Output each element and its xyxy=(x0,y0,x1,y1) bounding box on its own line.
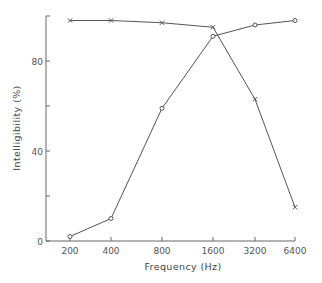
intelligibility-chart: 04080 200400800160032006400 Frequency (H… xyxy=(0,0,322,283)
series-line xyxy=(70,21,295,208)
circle-marker xyxy=(160,106,164,110)
x-tick-label: 800 xyxy=(153,246,170,256)
circle-marker xyxy=(68,235,72,239)
cross-marker xyxy=(253,97,257,101)
y-tick-label: 40 xyxy=(32,147,44,157)
circle-marker xyxy=(211,34,215,38)
x-axis-title: Frequency (Hz) xyxy=(144,261,221,272)
circle-marker xyxy=(253,23,257,27)
y-axis-ticks: 04080 xyxy=(32,16,50,247)
circle-marker xyxy=(109,217,113,221)
x-tick-label: 200 xyxy=(61,246,78,256)
y-tick-label: 80 xyxy=(32,57,44,67)
circle-marker xyxy=(293,19,297,23)
series-line xyxy=(70,21,295,237)
y-axis-title: Intelligibility (%) xyxy=(11,85,22,170)
series-cross-markers xyxy=(68,18,297,209)
y-tick-label: 0 xyxy=(37,237,43,247)
x-axis-ticks: 200400800160032006400 xyxy=(61,237,306,256)
series-circle-markers xyxy=(68,19,297,239)
x-tick-label: 3200 xyxy=(244,246,267,256)
axes xyxy=(46,16,295,241)
x-tick-label: 400 xyxy=(102,246,119,256)
x-tick-label: 1600 xyxy=(202,246,225,256)
data-series xyxy=(68,18,297,238)
cross-marker xyxy=(293,205,297,209)
x-tick-label: 6400 xyxy=(284,246,307,256)
